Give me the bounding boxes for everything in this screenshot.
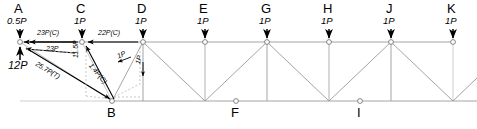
- node-label-e: E: [199, 2, 208, 15]
- node-label-b: B: [107, 106, 116, 119]
- node-label-g: G: [261, 2, 271, 15]
- force-label-chord-ac: 23P(C): [37, 29, 59, 36]
- node-label-a: A: [14, 2, 23, 15]
- load-label-h: 1P: [321, 16, 333, 26]
- load-label-g: 1P: [259, 16, 271, 26]
- load-label-c: 1P: [74, 16, 86, 26]
- load-label-e: 1P: [197, 16, 209, 26]
- force-label-chord-cd: 22P(C): [98, 29, 120, 36]
- load-label-d: 1P: [135, 16, 147, 26]
- node-label-h: H: [323, 2, 332, 15]
- node-label-j: J: [386, 2, 393, 15]
- node-label-i: I: [357, 106, 361, 119]
- truss-diagram-figure: A C D E G H J K 0.5P 1P 1P 1P 1P 1P 1P 1…: [0, 0, 477, 129]
- node-label-k: K: [447, 2, 456, 15]
- force-label-ab-horizontal-component: 23P: [46, 45, 58, 52]
- force-label-reaction-a: 12P: [8, 60, 28, 71]
- load-label-j: 1P: [383, 16, 395, 26]
- node-label-d: D: [137, 2, 146, 15]
- load-label-k: 1P: [445, 16, 457, 26]
- load-label-a: 0.5P: [7, 16, 27, 26]
- force-label-cb-vertical-component: 11.5P: [72, 40, 79, 58]
- node-label-c: C: [76, 2, 85, 15]
- applied-load-arrows: [20, 29, 453, 38]
- node-label-f: F: [231, 106, 239, 119]
